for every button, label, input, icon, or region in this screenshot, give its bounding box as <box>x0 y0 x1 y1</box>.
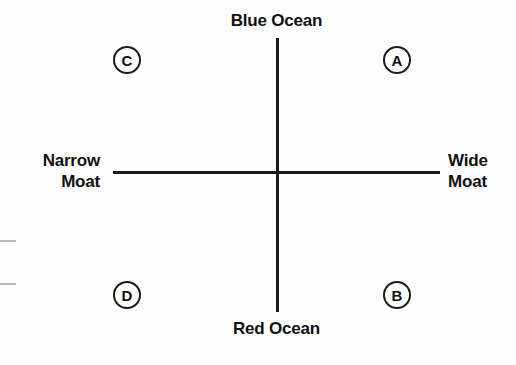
vertical-axis-line <box>276 38 279 312</box>
axis-label-left: Narrow Moat <box>0 150 100 192</box>
strategy-matrix-chart: Blue Ocean Red Ocean Narrow Moat Wide Mo… <box>0 0 516 365</box>
quadrant-marker-c: C <box>113 46 141 74</box>
axis-label-right: Wide Moat <box>448 150 516 192</box>
horizontal-axis-line <box>113 171 440 174</box>
axis-label-top: Blue Ocean <box>0 10 516 31</box>
page-edge-tick-lower <box>0 283 16 285</box>
page-edge-tick-upper <box>0 240 16 242</box>
quadrant-marker-d: D <box>113 281 141 309</box>
quadrant-marker-a: A <box>383 46 411 74</box>
axis-label-bottom: Red Ocean <box>0 318 516 339</box>
quadrant-marker-b: B <box>383 281 411 309</box>
